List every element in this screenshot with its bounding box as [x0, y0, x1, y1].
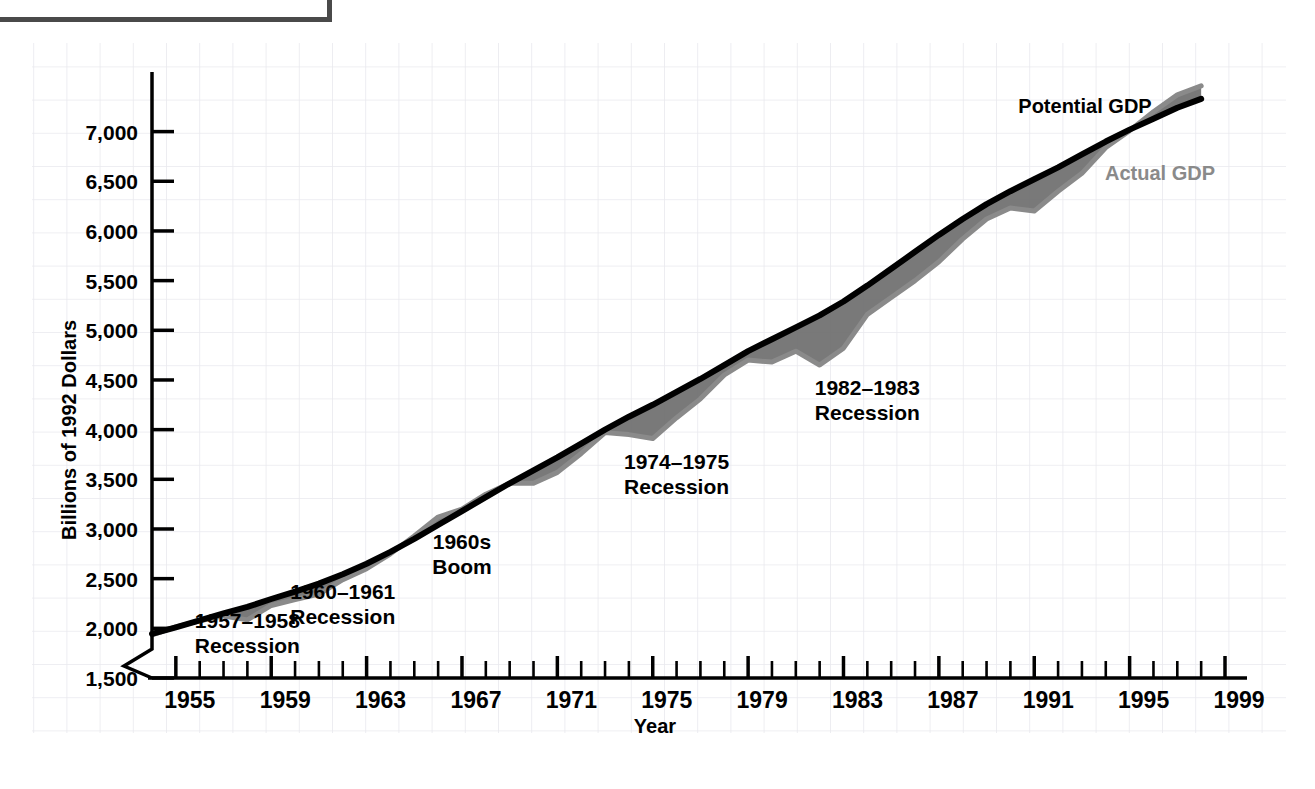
- x-tick-label: 1975: [641, 687, 692, 713]
- x-tick-label: 1991: [1023, 687, 1074, 713]
- y-tick-label: 7,000: [85, 121, 138, 144]
- x-tick-label: 1999: [1213, 687, 1264, 713]
- x-tick-label: 1967: [450, 687, 501, 713]
- legend-label-actual-gdp: Actual GDP: [1105, 162, 1215, 184]
- annotation-rec-1957: 1957–1958: [195, 609, 300, 632]
- y-axis-title: Billions of 1992 Dollars: [58, 320, 80, 540]
- annotation-rec-1974: 1974–1975: [624, 450, 729, 473]
- x-axis-title: Year: [634, 715, 676, 737]
- y-tick-label: 3,500: [85, 468, 138, 491]
- annotation-boom-1960s: 1960s: [433, 530, 491, 553]
- x-tick-label: 1963: [355, 687, 406, 713]
- y-tick-label: 6,500: [85, 170, 138, 193]
- annotation-rec-1960: 1960–1961: [290, 580, 395, 603]
- x-tick-label: 1959: [260, 687, 311, 713]
- gdp-chart-figure: 1,5002,0002,5003,0003,5004,0004,5005,000…: [0, 0, 1315, 789]
- y-tick-label: 4,500: [85, 369, 138, 392]
- legend-label-potential-gdp: Potential GDP: [1018, 95, 1151, 117]
- gdp-chart-svg: 1,5002,0002,5003,0003,5004,0004,5005,000…: [0, 0, 1315, 789]
- annotation-rec-1960: Recession: [290, 605, 395, 628]
- x-tick-label: 1955: [164, 687, 215, 713]
- annotation-boom-1960s: Boom: [432, 555, 492, 578]
- y-tick-label: 1,500: [85, 667, 138, 690]
- x-tick-label: 1983: [832, 687, 883, 713]
- y-tick-label: 3,000: [85, 518, 138, 541]
- annotation-rec-1982: Recession: [815, 401, 920, 424]
- x-tick-label: 1971: [546, 687, 597, 713]
- y-tick-label: 2,500: [85, 568, 138, 591]
- x-tick-label: 1987: [927, 687, 978, 713]
- x-tick-label: 1979: [737, 687, 788, 713]
- y-tick-label: 4,000: [85, 419, 138, 442]
- y-tick-label: 5,000: [85, 319, 138, 342]
- y-tick-label: 5,500: [85, 270, 138, 293]
- y-tick-label: 6,000: [85, 220, 138, 243]
- figure-root: 1,5002,0002,5003,0003,5004,0004,5005,000…: [0, 0, 1315, 789]
- annotation-rec-1974: Recession: [624, 475, 729, 498]
- x-tick-label: 1995: [1118, 687, 1169, 713]
- annotation-rec-1982: 1982–1983: [815, 376, 920, 399]
- annotation-rec-1957: Recession: [195, 634, 300, 657]
- y-tick-label: 2,000: [85, 617, 138, 640]
